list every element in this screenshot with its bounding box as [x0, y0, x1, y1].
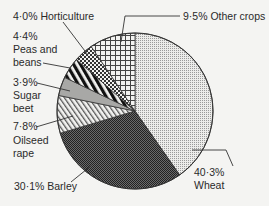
label-oilseed-line1: Oilseed [13, 134, 49, 148]
label-peas-pct: 4·4% [13, 30, 38, 44]
label-oilseed-pct: 7·8% [13, 120, 38, 134]
label-barley: 30·1% Barley [14, 180, 77, 194]
label-sugar-line1: Sugar [13, 89, 41, 103]
leader-peas [43, 63, 70, 68]
label-peas-line1: Peas and [13, 43, 57, 57]
label-oilseed-line2: rape [13, 147, 34, 161]
leader-horticulture [63, 22, 88, 55]
label-sugar-line2: beet [13, 102, 33, 116]
label-other-crops: 9·5% Other crops [183, 10, 265, 24]
label-sugar-pct: 3·9% [13, 76, 38, 90]
label-wheat-line1: Wheat [194, 179, 224, 193]
label-peas-line2: beans [13, 56, 42, 70]
label-horticulture: 4·0% Horticulture [13, 10, 94, 24]
pie-chart [0, 0, 269, 206]
label-wheat-pct: 40·3% [194, 166, 224, 180]
pie-slices [57, 33, 213, 189]
